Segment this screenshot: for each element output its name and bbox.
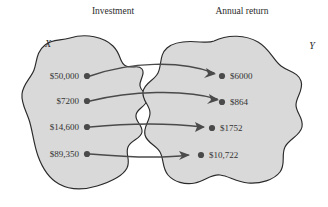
domain-node-dot-1[interactable] <box>84 73 90 79</box>
codomain-node-dot-4[interactable] <box>198 152 204 158</box>
header-annual-return: Annual return <box>215 6 268 16</box>
domain-label-3: $14,600 <box>50 122 80 132</box>
header-investment: Investment <box>92 6 135 16</box>
codomain-node-dot-3[interactable] <box>209 125 215 131</box>
domain-label-4: $89,350 <box>50 149 80 159</box>
codomain-label-3: $1752 <box>220 123 243 133</box>
codomain-label-2: $864 <box>230 97 249 107</box>
mapping-diagram: Investment Annual return X Y <box>0 0 328 207</box>
codomain-label-4: $10,722 <box>209 150 238 160</box>
domain-node-dot-3[interactable] <box>84 124 90 130</box>
codomain-set-blob <box>143 36 302 183</box>
domain-set-blob <box>22 36 147 189</box>
domain-node-dot-2[interactable] <box>84 98 90 104</box>
domain-label-1: $50,000 <box>50 71 80 81</box>
set-label-x: X <box>44 38 52 49</box>
domain-label-2: $7200 <box>57 96 80 106</box>
domain-node-dot-4[interactable] <box>84 151 90 157</box>
codomain-node-dot-2[interactable] <box>219 99 225 105</box>
figure-canvas: Investment Annual return X Y <box>0 0 328 207</box>
set-label-y: Y <box>309 40 316 51</box>
codomain-label-1: $6000 <box>230 71 253 81</box>
codomain-node-dot-1[interactable] <box>219 73 225 79</box>
